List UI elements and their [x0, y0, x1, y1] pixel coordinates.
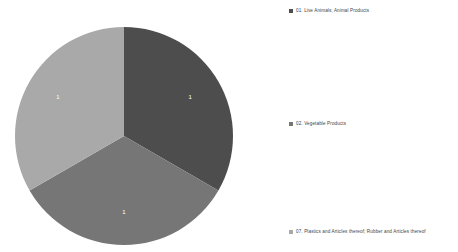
legend-swatch-icon	[289, 9, 293, 13]
legend-item-live-animals[interactable]: 01. Live Animals; Animal Products	[289, 8, 369, 14]
pie-chart-area: 111	[0, 0, 280, 252]
legend-swatch-icon	[289, 122, 293, 126]
pie-chart-svg: 111	[15, 27, 233, 245]
legend-item-label: 07. Plastics and Articles thereof; Rubbe…	[296, 229, 426, 235]
legend-item-vegetable-products[interactable]: 02. Vegetable Products	[289, 121, 346, 127]
chart-legend: 01. Live Animals; Animal Products 02. Ve…	[289, 0, 458, 252]
legend-swatch-icon	[289, 230, 293, 234]
legend-item-label: 01. Live Animals; Animal Products	[296, 8, 369, 14]
legend-item-plastics-rubber[interactable]: 07. Plastics and Articles thereof; Rubbe…	[289, 229, 426, 235]
legend-item-label: 02. Vegetable Products	[296, 121, 346, 127]
pie-chart: 111	[15, 27, 233, 245]
